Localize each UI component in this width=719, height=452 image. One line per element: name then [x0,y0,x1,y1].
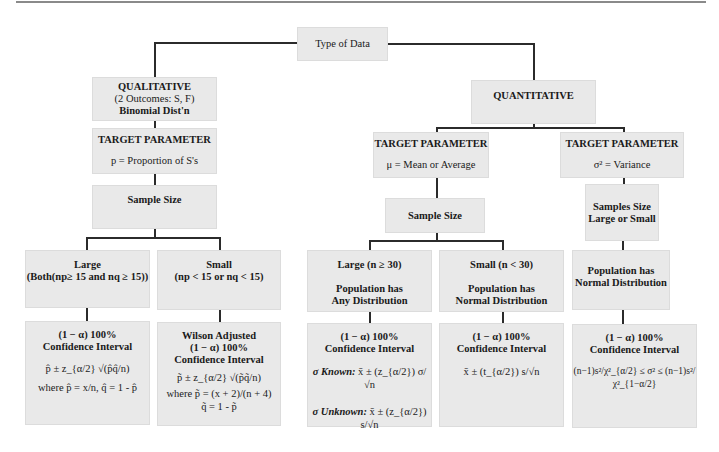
quantitative-node: QUANTITATIVE [471,80,596,124]
ci-title-line2: Confidence Interval [174,354,264,366]
connector [86,237,221,239]
connector [219,237,221,250]
variance-target-title: TARGET PARAMETER [566,138,679,150]
connector [436,232,438,240]
quantitative-title: QUANTITATIVE [493,90,574,102]
qual-large-node: Large (Both(np≥ 15 and nq ≥ 15)) [25,250,150,308]
qual-ci-large-node: (1 − α) 100% Confidence Interval p̂ ± z_… [25,321,150,425]
ci-title-line1: (1 − α) 100% [472,331,530,343]
mean-small-pop2: Normal Distribution [456,295,548,307]
qual-target-parameter-node: TARGET PARAMETER p = Proportion of S's [92,128,217,174]
mean-ci-large-node: (1 − α) 100% Confidence Interval σ Known… [307,323,432,427]
mean-small-node: Small (n < 30) Population has Normal Dis… [439,250,564,312]
sigma-known-formula: x̄ ± (z_{α/2}) σ/√n [358,366,426,390]
mean-target-desc: μ = Mean or Average [387,159,476,171]
mean-large-node: Large (n ≥ 30) Population has Any Distri… [307,250,432,312]
mean-large-pop1: Population has [336,283,403,295]
sigma-unknown-formula: x̄ ± (z_{α/2}) s/√n [360,406,426,430]
mean-sample-size-label: Sample Size [408,210,462,222]
variance-target-parameter-node: TARGET PARAMETER σ² = Variance [560,132,684,178]
connector [502,240,504,250]
ci-title-line1: (1 − α) 100% [340,331,398,343]
wilson-adjusted-label: Wilson Adjusted [182,330,256,342]
connector [154,173,156,185]
mean-large-pop2: Any Distribution [331,295,407,307]
ci-q-tilde: q̃ = 1 - p̃ [201,400,237,413]
ci-title-line2: Confidence Interval [457,343,547,355]
connector [86,237,88,250]
connector [436,178,438,198]
ci-where: where p̃ = (x + 2)/(n + 4) [167,387,272,400]
connector [154,42,297,44]
qual-small-condition: (np < 15 or nq < 15) [175,271,264,283]
qual-small-title: Small [206,259,232,271]
connector [219,310,221,322]
mean-sample-size-node: Sample Size [385,198,485,233]
variance-pop-line2: Normal Distribution [575,277,667,289]
qual-sample-size-label: Sample Size [128,194,182,206]
mean-ci-small-node: (1 − α) 100% Confidence Interval x̄ ± (t… [439,323,564,427]
mean-target-title: TARGET PARAMETER [375,138,488,150]
qualitative-dist: Binomial Dist'n [119,105,189,117]
variance-sample-size-line1: Samples Size [593,201,651,213]
variance-sample-size-node: Samples Size Large or Small [585,184,659,241]
ci-formula: p̂ ± z_{α/2} √(p̂q̂/n) [46,362,130,375]
connector [154,120,156,128]
variance-pop-node: Population has Normal Distribution [572,250,670,310]
connector [622,310,624,324]
ci-formula: (n−1)s²/χ²_{α/2} ≤ σ² ≤ (n−1)s²/χ²_{1−α/… [573,365,696,391]
sigma-known-label: σ Known: [313,366,356,377]
sigma-unknown-label: σ Unknown: [313,406,367,417]
type-of-data-label: Type of Data [315,38,370,50]
ci-title-line1: (1 − α) 100% [58,329,116,341]
connector [369,312,371,323]
mean-large-title: Large (n ≥ 30) [338,259,402,271]
connector [533,43,535,80]
connector [436,127,625,129]
qual-target-title: TARGET PARAMETER [98,134,211,146]
connector [86,308,88,321]
qual-small-node: Small (np < 15 or nq < 15) [157,250,281,310]
qual-large-condition: (Both(np≥ 15 and nq ≥ 15)) [27,271,149,283]
top-rule [16,1,706,3]
qualitative-title: QUALITATIVE [118,81,191,93]
ci-formula: x̄ ± (t_{α/2}) s/√n [464,365,540,378]
ci-title-line1: (1 − α) 100% [190,342,248,354]
mean-small-title: Small (n < 30) [470,259,533,271]
type-of-data-node: Type of Data [297,27,388,61]
variance-ci-node: (1 − α) 100% Confidence Interval (n−1)s²… [572,324,697,428]
variance-pop-line1: Population has [588,265,655,277]
qual-sample-size-node: Sample Size [92,185,217,229]
ci-title-line1: (1 − α) 100% [605,332,663,344]
variance-sample-size-line2: Large or Small [588,213,655,225]
qualitative-node: QUALITATIVE (2 Outcomes: S, F) Binomial … [92,77,217,121]
qual-large-title: Large [74,259,101,271]
connector [622,240,624,250]
ci-title-line2: Confidence Interval [325,343,415,355]
mean-target-parameter-node: TARGET PARAMETER μ = Mean or Average [373,132,489,178]
connector [154,42,156,77]
connector [387,43,534,45]
connector [369,240,504,242]
ci-title-line2: Confidence Interval [590,344,680,356]
qual-target-desc: p = Proportion of S's [111,155,198,167]
connector [502,312,504,323]
qualitative-subtitle: (2 Outcomes: S, F) [115,93,195,105]
ci-title-line2: Confidence Interval [43,341,133,353]
qual-ci-small-node: Wilson Adjusted (1 − α) 100% Confidence … [157,322,281,426]
variance-target-desc: σ² = Variance [594,159,651,171]
ci-formula: p̃ ± z_{α/2} √(p̃q̃/n) [177,371,261,384]
connector [369,240,371,250]
ci-where: where p̂ = x/n, q̂ = 1 - p̂ [38,381,137,394]
mean-small-pop1: Population has [468,283,535,295]
